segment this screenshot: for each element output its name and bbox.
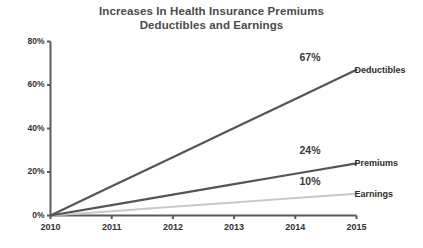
series-line-earnings — [51, 194, 357, 216]
series-label-earnings: Earnings — [355, 189, 394, 199]
series-label-premiums: Premiums — [355, 158, 399, 168]
xtick-label-2014: 2014 — [272, 222, 318, 232]
xtick-label-2015: 2015 — [334, 222, 380, 232]
ytick-label-0: 0% — [9, 211, 45, 220]
plot-area — [0, 0, 423, 248]
xtick-label-2012: 2012 — [150, 222, 196, 232]
value-label-deductibles: 67% — [300, 51, 321, 63]
value-label-earnings: 10% — [300, 175, 321, 187]
series-label-deductibles: Deductibles — [355, 65, 406, 75]
ytick-label-20: 20% — [9, 167, 45, 176]
ytick-label-60: 60% — [9, 80, 45, 89]
series-line-premiums — [51, 163, 357, 215]
ytick-label-40: 40% — [9, 124, 45, 133]
xtick-label-2013: 2013 — [211, 222, 257, 232]
chart-container: Increases In Health Insurance Premiums D… — [0, 0, 423, 248]
ytick-label-80: 80% — [9, 37, 45, 46]
xtick-label-2010: 2010 — [28, 222, 74, 232]
series-line-deductibles — [51, 70, 357, 216]
value-label-premiums: 24% — [300, 144, 321, 156]
xtick-label-2011: 2011 — [89, 222, 135, 232]
